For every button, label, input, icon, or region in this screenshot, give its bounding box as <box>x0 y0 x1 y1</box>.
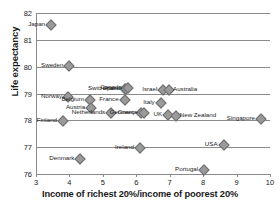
data-point-marker <box>75 153 86 164</box>
data-point-marker <box>57 116 68 127</box>
data-point-label: Australia <box>173 86 197 92</box>
data-point-label: UK <box>153 111 162 117</box>
data-point-label: Greece <box>118 109 138 115</box>
data-point-marker <box>155 97 166 108</box>
data-point-label: New Zealand <box>180 112 216 118</box>
gridline-y-82 <box>36 13 270 14</box>
data-point-label: Japan <box>28 21 45 27</box>
plot-area: JapanSwedenNorwayBelgiumFinlandAustriaNe… <box>36 13 270 174</box>
y-tick-label-80: 80 <box>0 63 32 72</box>
gridline-y-76 <box>36 174 270 175</box>
data-point-label: France <box>99 96 118 102</box>
y-tick-label-78: 78 <box>0 116 32 125</box>
data-point-label: Norway <box>41 93 62 99</box>
gridline-y-81 <box>36 40 270 41</box>
data-point-marker <box>134 142 145 153</box>
y-tick-label-81: 81 <box>0 36 32 45</box>
x-tick-label-10: 10 <box>260 178 280 187</box>
data-point-label: Italy <box>143 99 154 105</box>
y-tick-label-77: 77 <box>0 143 32 152</box>
data-point-label: Portugal <box>175 166 198 172</box>
x-tick-label-5: 5 <box>93 178 113 187</box>
data-point-label: Denmark <box>49 155 74 161</box>
data-point-marker <box>45 19 56 30</box>
data-point-label: Netherlands <box>72 109 105 115</box>
data-point-marker <box>64 61 75 72</box>
x-tick-label-6: 6 <box>126 178 146 187</box>
data-point-label: USA <box>205 141 218 147</box>
data-point-label: Sweden <box>41 62 63 68</box>
x-tick-label-8: 8 <box>193 178 213 187</box>
data-point-marker <box>255 114 266 125</box>
data-point-label: Israel <box>142 86 157 92</box>
x-tick-label-3: 3 <box>26 178 46 187</box>
scatter-chart: Life expectancy 76777879808182 345678910… <box>0 0 280 207</box>
y-tick-label-79: 79 <box>0 90 32 99</box>
data-point-label: Canada <box>100 84 122 90</box>
data-point-label: Singapore <box>227 115 255 121</box>
data-point-marker <box>218 140 229 151</box>
x-tick-label-4: 4 <box>59 178 79 187</box>
x-tick-label-7: 7 <box>160 178 180 187</box>
gridline-y-77 <box>36 147 270 148</box>
x-tick-mark-10 <box>270 174 271 177</box>
data-point-label: Belgium <box>61 96 83 102</box>
data-point-label: Ireland <box>115 144 134 150</box>
data-point-marker <box>119 94 130 105</box>
y-tick-label-82: 82 <box>0 9 32 18</box>
x-tick-label-9: 9 <box>227 178 247 187</box>
x-axis-title: Income of richest 20%/income of poorest … <box>0 189 280 199</box>
data-point-label: Finland <box>37 117 57 123</box>
